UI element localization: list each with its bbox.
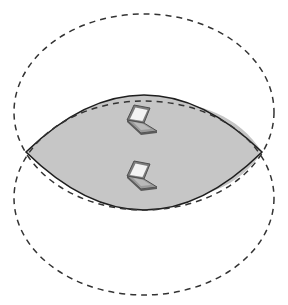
diagram-canvas [0,0,288,305]
coverage-diagram: Overlapping coverage areas of two wirele… [0,0,288,305]
